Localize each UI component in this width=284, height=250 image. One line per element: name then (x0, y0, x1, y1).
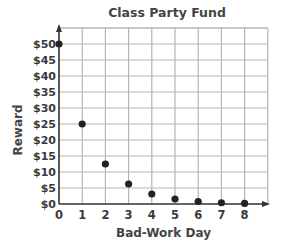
data-point (195, 198, 202, 205)
y-tick-label: $15 (33, 150, 56, 163)
data-point (55, 40, 62, 47)
x-tick-label: 6 (194, 208, 202, 222)
x-tick-label: 7 (217, 208, 225, 222)
data-point (125, 180, 132, 187)
y-tick-label: $10 (33, 166, 56, 179)
x-tick-label: 8 (241, 208, 249, 222)
data-point (171, 195, 178, 202)
y-tick-label: $35 (33, 86, 56, 99)
x-tick-label: 2 (101, 208, 109, 222)
y-tick-label: $0 (41, 198, 57, 211)
data-point (241, 200, 248, 207)
y-tick-label: $30 (33, 102, 56, 115)
x-axis-arrow-icon (262, 201, 270, 207)
y-tick-label: $45 (33, 54, 56, 67)
x-tick-label: 0 (55, 208, 63, 222)
data-point (148, 190, 155, 197)
plot-area: $0$5$10$15$20$25$30$35$40$45$50012345678 (0, 0, 284, 250)
y-tick-label: $50 (33, 38, 56, 51)
data-point (102, 160, 109, 167)
y-tick-label: $40 (33, 70, 56, 83)
y-tick-label: $20 (33, 134, 56, 147)
x-tick-label: 1 (78, 208, 86, 222)
y-tick-label: $5 (41, 182, 56, 195)
x-tick-label: 3 (125, 208, 133, 222)
y-tick-label: $25 (33, 118, 56, 131)
data-point (218, 199, 225, 206)
data-point (79, 120, 86, 127)
x-tick-label: 4 (148, 208, 156, 222)
x-tick-label: 5 (171, 208, 179, 222)
